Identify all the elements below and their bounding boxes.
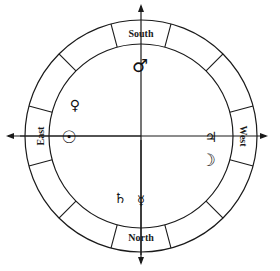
house-divider bbox=[230, 160, 253, 166]
house-divider bbox=[230, 106, 253, 112]
label-south: South bbox=[128, 28, 153, 39]
jupiter-icon: ♃ bbox=[205, 129, 218, 145]
planet-glyphs: ♂ ♀ ☉ ♃ ☽ ♄ ☿ bbox=[61, 55, 217, 208]
house-divider bbox=[111, 225, 117, 248]
moon-icon: ☽ bbox=[200, 150, 215, 170]
house-divider bbox=[29, 106, 52, 112]
house-divider bbox=[111, 24, 117, 47]
house-divider bbox=[29, 160, 52, 166]
label-east: East bbox=[35, 126, 46, 146]
house-divider bbox=[206, 201, 223, 218]
house-divider bbox=[165, 225, 171, 248]
horoscope-wheel: South North East West ♂ ♀ ☉ ♃ ☽ ♄ ☿ bbox=[0, 0, 280, 271]
house-divider bbox=[59, 54, 76, 71]
house-divider bbox=[206, 54, 223, 71]
mercury-icon: ☿ bbox=[137, 193, 145, 208]
venus-icon: ♀ bbox=[70, 97, 80, 113]
sun-icon: ☉ bbox=[61, 127, 76, 147]
saturn-icon: ♄ bbox=[114, 190, 127, 206]
mars-icon: ♂ bbox=[132, 55, 148, 76]
house-divider bbox=[165, 24, 171, 47]
label-west: West bbox=[238, 125, 249, 147]
label-north: North bbox=[128, 232, 154, 243]
house-divider bbox=[59, 201, 76, 218]
